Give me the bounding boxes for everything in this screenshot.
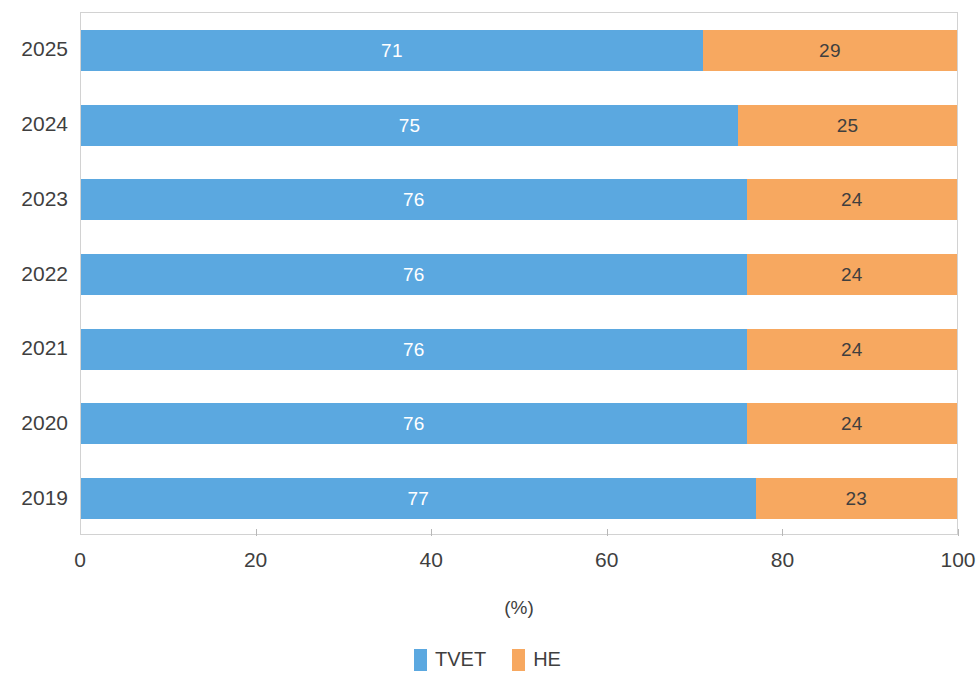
bar-segment-tvet: 71 [81, 30, 703, 71]
x-axis-tick-label-80: 80 [771, 548, 794, 572]
y-axis-label-2025: 2025 [2, 37, 68, 61]
bar-segment-he: 24 [747, 179, 957, 220]
bar-row: 7723 [81, 478, 957, 519]
y-axis-label-2021: 2021 [2, 336, 68, 360]
x-axis-tick-label-60: 60 [595, 548, 618, 572]
legend-item-tvet[interactable]: TVET [414, 648, 486, 671]
tick-mark-100 [958, 529, 959, 536]
legend-item-he[interactable]: HE [512, 648, 561, 671]
legend-swatch-icon-he [512, 649, 525, 671]
bar-segment-tvet: 76 [81, 329, 747, 370]
legend-label-he: HE [533, 648, 561, 671]
x-axis-tick-label-20: 20 [244, 548, 267, 572]
tick-mark-20 [256, 529, 257, 536]
bar-row: 7624 [81, 403, 957, 444]
tick-mark-60 [607, 529, 608, 536]
bar-row: 7624 [81, 329, 957, 370]
y-axis-label-2019: 2019 [2, 486, 68, 510]
tick-mark-80 [782, 529, 783, 536]
bar-row: 7624 [81, 179, 957, 220]
bar-segment-he: 24 [747, 329, 957, 370]
x-axis-tick-label-40: 40 [420, 548, 443, 572]
x-axis-title: (%) [80, 597, 958, 619]
bar-segment-he: 25 [738, 105, 957, 146]
bar-row: 7525 [81, 105, 957, 146]
bar-segment-he: 23 [756, 478, 957, 519]
x-axis-tick-label-100: 100 [940, 548, 975, 572]
bar-segment-he: 29 [703, 30, 957, 71]
bar-segment-tvet: 76 [81, 254, 747, 295]
bar-segment-tvet: 77 [81, 478, 756, 519]
x-axis-tick-labels: 020406080100 [80, 548, 958, 580]
legend-label-tvet: TVET [435, 648, 486, 671]
bar-row: 7129 [81, 30, 957, 71]
y-axis-label-2024: 2024 [2, 112, 68, 136]
x-axis-tick-label-0: 0 [74, 548, 86, 572]
bar-segment-he: 24 [747, 403, 957, 444]
y-axis-label-2023: 2023 [2, 187, 68, 211]
tick-mark-40 [431, 529, 432, 536]
bar-segment-tvet: 75 [81, 105, 738, 146]
bar-row: 7624 [81, 254, 957, 295]
legend-swatch-icon-tvet [414, 649, 427, 671]
bar-segment-tvet: 76 [81, 403, 747, 444]
y-axis-category-labels: 2025202420232022202120202019 [0, 12, 68, 535]
chart-legend: TVETHE [0, 648, 975, 671]
y-axis-label-2020: 2020 [2, 411, 68, 435]
plot-area: 7129752576247624762476247723 [80, 12, 958, 535]
bar-segment-tvet: 76 [81, 179, 747, 220]
y-axis-label-2022: 2022 [2, 262, 68, 286]
x-axis-tick-marks [80, 536, 958, 544]
bar-segment-he: 24 [747, 254, 957, 295]
